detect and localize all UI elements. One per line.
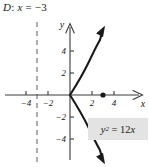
y-axis-label: y <box>59 19 65 30</box>
plot-canvas: −4 −2 2 4 4 2 −2 −4 x y <box>0 0 149 167</box>
y-tick-label--4: −4 <box>55 134 66 144</box>
parabola-lower-arrow-icon <box>97 153 105 164</box>
y-tick-label-4: 4 <box>62 46 67 56</box>
equation-rhs-coefficient: 12 <box>120 124 131 135</box>
focus-point-marker <box>100 92 105 97</box>
y-tick-label--2: −2 <box>55 112 66 122</box>
x-tick-label-2: 2 <box>90 98 95 108</box>
x-tick-label-4: 4 <box>112 98 117 108</box>
x-tick-label--4: −4 <box>21 98 32 108</box>
x-axis-label: x <box>140 98 146 109</box>
parabola-upper-arrow-icon <box>97 27 105 38</box>
x-tick-label--2: −2 <box>43 98 54 108</box>
equation-rhs-var: x <box>131 124 136 135</box>
parabola-figure: D: x = −3 −4 −2 2 4 4 2 −2 −4 x y <box>0 0 149 167</box>
equation-callout-box: y2 = 12x <box>88 118 148 140</box>
y-tick-label-2: 2 <box>62 68 67 78</box>
